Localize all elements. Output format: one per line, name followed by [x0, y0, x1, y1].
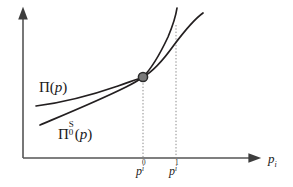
curve-label-pi: Π(p) — [39, 80, 67, 95]
x-tick-label-p0: p0i — [136, 163, 142, 177]
curve-label-pi-close: ) — [62, 79, 67, 95]
curve-label-pi-s: ΠS0(p) — [58, 124, 92, 142]
curve-label-pi-s-sub: 0 — [69, 128, 74, 137]
x-tick-label-p1-sub: i — [175, 166, 177, 173]
dotted-guides-group — [143, 25, 176, 157]
x-axis-label-sub: i — [275, 160, 277, 169]
tangency-point-marker — [138, 72, 147, 81]
curves-group — [36, 8, 203, 125]
curve-label-pi-s-close: ) — [87, 126, 92, 142]
x-axis-label: pi — [268, 152, 277, 169]
curve-label-pi-s-symbol: Π — [58, 126, 69, 142]
x-tick-label-p0-sub: i — [142, 166, 144, 173]
figure-root: Π(p) ΠS0(p) p0i p1i pi — [0, 0, 293, 187]
tangency-marker-group — [138, 72, 147, 81]
x-tick-label-p1: p1i — [169, 163, 175, 177]
curve-label-pi-symbol: Π — [39, 79, 50, 95]
